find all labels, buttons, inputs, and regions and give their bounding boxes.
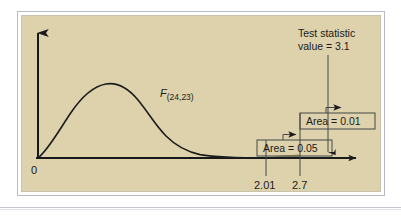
x-tick-label-27: 2.7 (292, 179, 307, 191)
origin-label: 0 (31, 164, 37, 176)
test-statistic-label-line2: value = 3.1 (298, 40, 350, 52)
curve-label-df: (24,23) (167, 92, 194, 102)
test-statistic-label-line1: Test statistic (298, 27, 355, 39)
area-005-label: Area = 0.05 (263, 142, 318, 154)
diagram-svg: 0 F(24,23) Area = 0.05 Area = 0.01 Test … (0, 0, 401, 218)
figure-root: 0 F(24,23) Area = 0.05 Area = 0.01 Test … (0, 0, 401, 218)
curve-label: F(24,23) (160, 87, 194, 102)
x-tick-label-201: 2.01 (254, 179, 275, 191)
area-001-label: Area = 0.01 (306, 115, 361, 127)
